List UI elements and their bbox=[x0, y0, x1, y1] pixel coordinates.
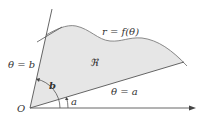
region-shading bbox=[30, 26, 184, 108]
polar-region-diagram: r = f(θ) ℜ θ = b θ = a b a O bbox=[0, 0, 203, 121]
axis-arrowhead-icon bbox=[189, 106, 196, 111]
origin-label: O bbox=[17, 103, 25, 114]
ray-a-label: θ = a bbox=[111, 86, 138, 97]
angle-b-label: b bbox=[49, 80, 56, 91]
region-label: ℜ bbox=[90, 57, 99, 68]
angle-a-label: a bbox=[71, 96, 77, 107]
ray-b-label: θ = b bbox=[8, 59, 35, 70]
curve-label: r = f(θ) bbox=[102, 26, 139, 37]
